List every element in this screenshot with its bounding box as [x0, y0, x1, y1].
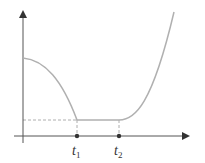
t1-point: [75, 134, 79, 138]
t2-label: t2: [114, 143, 122, 160]
t2-point: [117, 134, 121, 138]
function-curve: [23, 12, 174, 120]
function-plot: t1 t2: [0, 0, 205, 163]
t1-label: t1: [72, 143, 80, 160]
